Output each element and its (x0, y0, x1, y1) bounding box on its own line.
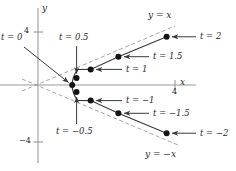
annotation-t-neg-0-5: t = −0.5 (56, 127, 93, 136)
annotation-t-1: t = 1 (126, 65, 147, 74)
point-t-neg-1-5 (115, 110, 121, 116)
annotation-t-0-5: t = 0.5 (59, 33, 88, 42)
x-tick-label-4: 4 (172, 88, 177, 96)
point-t-neg-0-5 (74, 89, 80, 95)
annotation-t-neg-1: t = −1 (126, 96, 154, 105)
y-tick-label-4: 4 (24, 27, 29, 35)
parametric-curve-figure: y x 4 −4 4 t = 0 t = 0.5 t = 1 t = 1.5 t… (0, 0, 236, 171)
point-t-0 (69, 82, 75, 88)
asymptote-label-y-equals-negative-x: y = −x (145, 150, 176, 159)
arrow-t-0 (24, 47, 69, 83)
annotation-t-2: t = 2 (200, 32, 221, 41)
point-t-1 (88, 66, 94, 72)
point-t-2 (164, 34, 170, 40)
asymptote-label-y-equals-x: y = x (148, 11, 171, 20)
y-axis-label: y (42, 4, 47, 13)
point-t-1-5 (115, 54, 121, 60)
x-axis-label: x (180, 78, 185, 87)
point-t-0-5 (74, 75, 80, 81)
annotation-t-neg-2: t = −2 (200, 129, 228, 138)
point-t-neg-1 (88, 98, 94, 104)
plot-canvas (0, 0, 236, 171)
annotation-t-neg-1-5: t = −1.5 (153, 109, 190, 118)
annotation-t-0: t = 0 (1, 33, 22, 42)
y-tick-label-minus-4: −4 (19, 137, 31, 145)
annotation-t-1-5: t = 1.5 (153, 52, 182, 61)
point-t-neg-2 (164, 130, 170, 136)
